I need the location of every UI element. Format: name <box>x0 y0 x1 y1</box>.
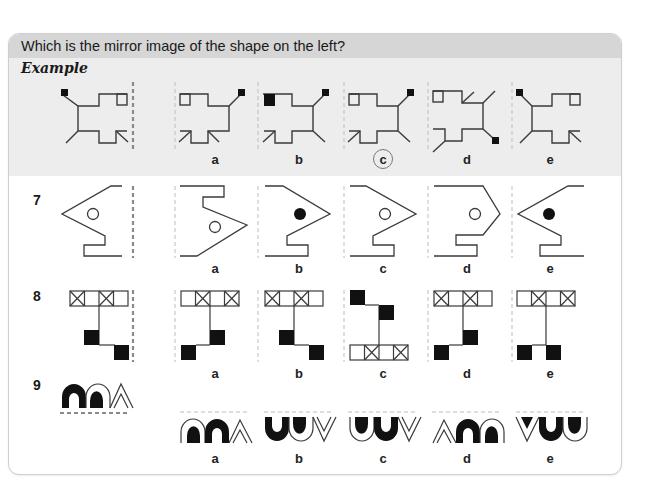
q7-option-b[interactable]: b <box>289 261 309 276</box>
question-9-number: 9 <box>33 377 41 393</box>
example-option-e[interactable]: e <box>540 152 560 167</box>
q9-option-b[interactable]: b <box>289 451 309 466</box>
q7-option-e[interactable]: e <box>540 261 560 276</box>
q9-option-a[interactable]: a <box>205 451 225 466</box>
q9-option-d[interactable]: d <box>457 451 477 466</box>
example-option-a[interactable]: a <box>205 152 225 167</box>
q8-option-a[interactable]: a <box>205 366 225 381</box>
q8-option-b[interactable]: b <box>289 366 309 381</box>
q7-option-d[interactable]: d <box>457 261 477 276</box>
q8-option-d[interactable]: d <box>457 366 477 381</box>
q9-option-c[interactable]: c <box>373 451 393 466</box>
q7-option-c[interactable]: c <box>373 261 393 276</box>
example-option-c[interactable]: c <box>373 152 393 167</box>
q7-option-a[interactable]: a <box>205 261 225 276</box>
question-7-number: 7 <box>33 192 41 208</box>
example-option-b[interactable]: b <box>289 152 309 167</box>
example-stem-shape <box>0 0 652 480</box>
example-option-d[interactable]: d <box>457 152 477 167</box>
q8-option-e[interactable]: e <box>540 366 560 381</box>
q9-option-e[interactable]: e <box>540 451 560 466</box>
q8-option-c[interactable]: c <box>373 366 393 381</box>
question-8-number: 8 <box>33 288 41 304</box>
